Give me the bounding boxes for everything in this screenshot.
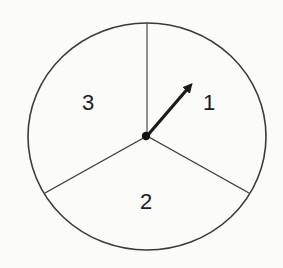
- section-label-2: 2: [140, 189, 152, 214]
- divider-right: [147, 136, 249, 193]
- spinner-svg: 1 2 3: [0, 0, 283, 268]
- divider-left: [45, 136, 147, 193]
- pivot-dot: [142, 132, 150, 140]
- spinner-diagram: 1 2 3: [0, 0, 283, 268]
- spinner-arrow[interactable]: [147, 86, 190, 136]
- section-label-3: 3: [82, 90, 94, 115]
- section-label-1: 1: [203, 90, 215, 115]
